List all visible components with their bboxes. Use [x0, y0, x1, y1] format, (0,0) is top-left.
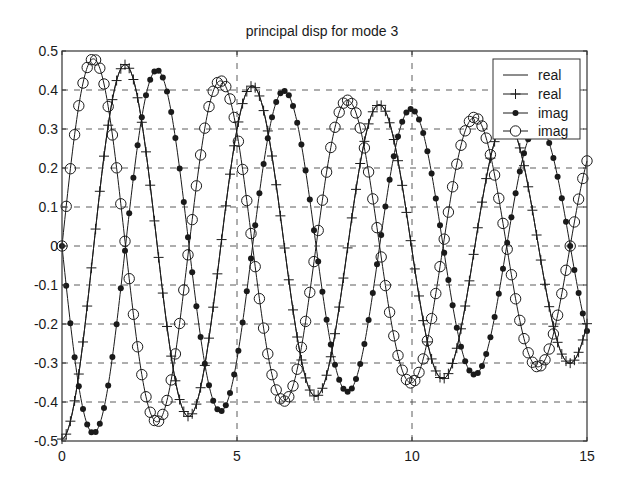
dot-marker [147, 77, 153, 83]
dot-marker [454, 325, 460, 331]
dot-marker [353, 376, 359, 382]
dot-marker [114, 321, 120, 327]
dot-marker [462, 358, 468, 364]
dot-marker [235, 348, 241, 354]
dot-marker [160, 75, 166, 81]
legend: realrealimagimag [493, 59, 580, 139]
dot-marker [500, 266, 506, 272]
dot-marker [521, 150, 527, 156]
y-tick-label: -0.4 [34, 394, 58, 410]
dot-marker [429, 170, 435, 176]
legend-label: imag [538, 105, 568, 121]
dot-marker [546, 140, 552, 146]
legend-label: imag [538, 123, 568, 139]
dot-marker [93, 429, 99, 435]
y-tick-label: -0.1 [34, 277, 58, 293]
dot-marker [416, 117, 422, 123]
dot-marker [189, 269, 195, 275]
dot-marker [122, 248, 128, 254]
dot-marker [118, 285, 124, 291]
dot-marker [412, 108, 418, 114]
dot-marker [290, 103, 296, 109]
dot-marker [63, 283, 69, 289]
dot-marker [168, 109, 174, 115]
dot-marker [231, 372, 237, 378]
dot-marker [399, 119, 405, 125]
dot-marker [223, 402, 229, 408]
dot-marker [252, 222, 258, 228]
x-tick-label: 15 [579, 448, 595, 464]
dot-marker [395, 134, 401, 140]
dot-marker [109, 354, 115, 360]
dot-marker [450, 302, 456, 308]
dot-marker [580, 311, 586, 317]
dot-marker [382, 203, 388, 209]
dot-marker [424, 148, 430, 154]
dot-marker [445, 277, 451, 283]
dot-marker [366, 317, 372, 323]
dot-marker [391, 153, 397, 159]
y-tick-label: -0.5 [34, 433, 58, 449]
dot-marker [84, 421, 90, 427]
dot-marker [130, 175, 136, 181]
dot-marker [126, 210, 132, 216]
dot-marker [177, 166, 183, 172]
dot-marker [156, 68, 162, 74]
dot-marker [248, 255, 254, 261]
x-tick-label: 10 [404, 448, 420, 464]
dot-marker [496, 291, 502, 297]
dot-marker [135, 142, 141, 148]
y-tick-label: 0.5 [39, 43, 59, 59]
dot-marker [143, 92, 149, 98]
dot-marker [265, 135, 271, 141]
dot-marker [332, 362, 338, 368]
dot-marker [72, 354, 78, 360]
dot-marker [76, 383, 82, 389]
y-axis-tick-labels: -0.5-0.4-0.3-0.2-0.100.10.20.30.40.5 [34, 43, 58, 449]
dot-marker [513, 190, 519, 196]
dot-marker [181, 199, 187, 205]
dot-marker [139, 114, 145, 120]
dot-marker [319, 289, 325, 295]
dot-marker [483, 351, 489, 357]
dot-marker [273, 99, 279, 105]
dot-marker [349, 385, 355, 391]
y-tick-label: 0 [50, 238, 58, 254]
dot-marker [164, 89, 170, 95]
dot-marker [101, 405, 107, 411]
chart-title: principal disp for mode 3 [246, 23, 399, 39]
y-tick-label: 0.3 [39, 121, 59, 137]
dot-marker [227, 390, 233, 396]
dot-marker [508, 214, 514, 220]
y-tick-label: -0.3 [34, 355, 58, 371]
dot-marker [307, 197, 313, 203]
dot-marker [361, 341, 367, 347]
dot-marker [492, 314, 498, 320]
dot-marker [336, 377, 342, 383]
dot-marker [571, 267, 577, 273]
chart: principal disp for mode 3 051015 -0.5-0.… [0, 0, 627, 489]
y-tick-label: -0.2 [34, 316, 58, 332]
legend-label: real [538, 67, 561, 83]
dot-marker [202, 361, 208, 367]
circle-marker-icon [510, 126, 520, 136]
dot-marker [555, 174, 561, 180]
dot-marker [193, 303, 199, 309]
dot-marker [517, 169, 523, 175]
legend-label: real [538, 86, 561, 102]
dot-marker [387, 177, 393, 183]
dot-marker [576, 290, 582, 296]
dot-marker [286, 92, 292, 98]
dot-marker [269, 114, 275, 120]
dot-marker [458, 344, 464, 350]
dot-marker [210, 398, 216, 404]
dot-marker [433, 195, 439, 201]
y-tick-label: 0.4 [39, 82, 59, 98]
x-tick-label: 0 [58, 448, 66, 464]
dot-marker [357, 361, 363, 367]
dot-marker [172, 135, 178, 141]
dot-marker [487, 334, 493, 340]
dot-marker [563, 219, 569, 225]
x-tick-label: 5 [233, 448, 241, 464]
dot-marker-icon [513, 110, 519, 116]
